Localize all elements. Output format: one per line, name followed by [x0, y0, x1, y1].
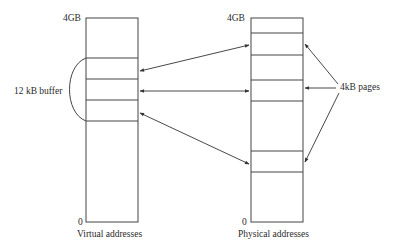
virtual-top-label: 4GB [63, 14, 81, 24]
buffer-brace [70, 58, 87, 121]
physical-bottom-label: 0 [242, 218, 247, 228]
pages-pointer-arrow-3 [305, 93, 339, 162]
pages-label: 4kB pages [340, 83, 380, 93]
pages-pointer-arrow-1 [305, 44, 338, 84]
virtual-address-space [86, 18, 138, 222]
mapping-arrow-1 [140, 45, 249, 71]
mapping-arrow-3 [140, 113, 249, 164]
physical-address-space [251, 18, 303, 222]
buffer-label: 12 kB buffer [14, 87, 62, 97]
physical-caption: Physical addresses [238, 230, 309, 240]
virtual-bottom-label: 0 [78, 218, 83, 228]
memory-diagram [0, 0, 398, 251]
physical-top-label: 4GB [227, 14, 245, 24]
virtual-caption: Virtual addresses [77, 230, 142, 240]
